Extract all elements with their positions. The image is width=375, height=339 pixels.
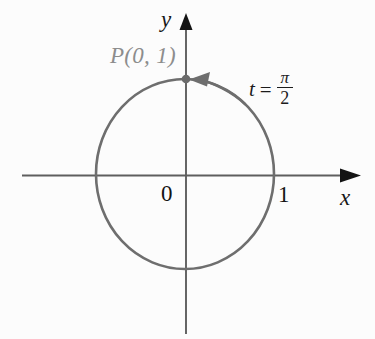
y-axis-label: y xyxy=(161,8,171,31)
direction-arrowhead xyxy=(189,72,210,87)
fraction-denominator: 2 xyxy=(278,88,291,107)
unit-circle xyxy=(96,79,274,269)
unit-circle-figure: y x 0 1 P(0, 1) t = π 2 xyxy=(0,0,375,339)
fraction-numerator: π xyxy=(278,69,291,87)
origin-label: 0 xyxy=(161,182,173,205)
pi-over-two-fraction: π 2 xyxy=(277,69,293,107)
terminal-point-marker xyxy=(182,75,191,84)
y-axis-arrowhead xyxy=(180,13,193,30)
parameter-label: t = π 2 xyxy=(249,70,293,108)
parameter-variable: t xyxy=(249,79,255,100)
equals-sign: = xyxy=(260,80,272,101)
x-axis-arrowhead xyxy=(340,169,361,183)
diagram-canvas xyxy=(0,0,375,339)
unit-tick-label: 1 xyxy=(278,183,290,206)
terminal-point-label: P(0, 1) xyxy=(110,44,176,67)
x-axis-label: x xyxy=(340,186,350,209)
